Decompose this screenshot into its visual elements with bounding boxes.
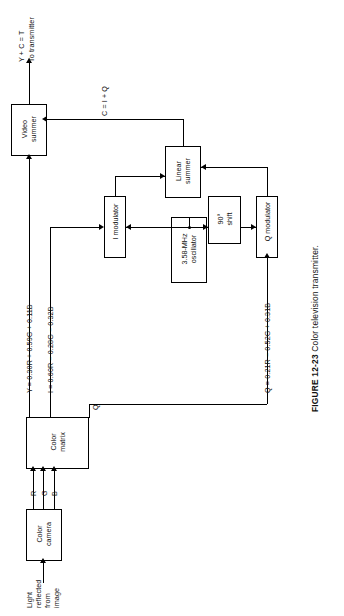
label-c-sum: C = I + Q [101,86,110,116]
label-input-line4: image [53,588,62,608]
figure-number: FIGURE 12-23 [310,354,320,412]
label-i-equation: I = 0.60R − 0.28G − 0.32B [47,306,56,393]
arrow-i-into-modulator [99,224,104,230]
wire-i-horizontal [50,227,99,228]
label-g: G [41,490,50,496]
wire-c-horizontal [47,119,183,120]
arrow-q-into-modulator [264,253,270,258]
label-q-tap: Q [92,404,101,410]
junction-oscillator [188,226,191,229]
wire-c-vertical [183,119,184,146]
arrow-q-into-summer [201,164,206,170]
label-q-equation: Q = 0.21R − 0.52G + 0.31B [264,303,273,393]
label-output-line1: Y + C = T [18,31,27,62]
wire-output [29,62,30,104]
label-y-equation: Y = 0.30R + 0.59G + 0.11B [26,304,35,393]
wire-i-out-horizontal [115,176,165,177]
block-90-shift: 90°shift [208,196,241,244]
arrow-g [40,466,46,471]
arrow-i-into-summer [160,173,165,179]
wire-g [43,469,44,509]
figure-title: Color television transmitter. [310,245,320,352]
block-color-matrix: Colormatrix [26,417,89,469]
block-oscillator-label: 3.58-MHzoscillator [180,189,198,309]
block-color-camera: Colorcamera [26,509,62,561]
label-r: R [30,491,39,496]
label-b: B [51,491,60,496]
wire-q-matrix-stub [89,404,90,418]
wire-b [54,469,55,509]
wire-i-out-vertical [115,176,116,196]
arrow-shift-to-q [251,224,256,230]
arrow-b [51,466,57,471]
block-i-modulator: I modulator [104,196,126,258]
block-video-summer: Videosummer [11,104,47,156]
block-q-modulator: Q modulator [256,196,278,258]
wire-osc-bus [126,227,208,228]
arrow-osc-to-i [126,224,131,230]
wire-q-out-horizontal [201,167,267,168]
figure-caption: FIGURE 12-23 Color television transmitte… [310,245,320,412]
arrow-c-into-video-summer [42,116,47,122]
arrow-y [26,154,32,159]
arrow-light-input [40,558,46,563]
block-90-shift-label: 90°shift [216,159,234,279]
arrow-r [30,466,36,471]
wire-r [33,469,34,509]
label-output-line2: To transmitter [28,17,37,62]
wire-q-horizontal-bottom [89,404,267,405]
figure-canvas: Colorcamera Colormatrix Videosummer I mo… [0,0,344,616]
block-color-matrix-label: Colormatrix [49,382,67,502]
wire-q-out-vertical [267,167,268,196]
arrow-osc-to-shift [203,224,208,230]
